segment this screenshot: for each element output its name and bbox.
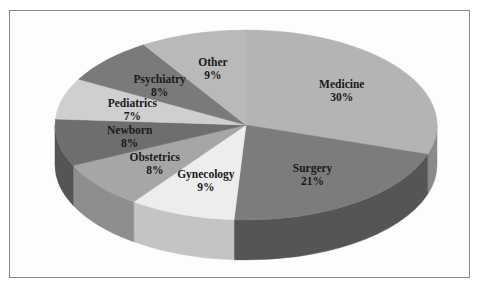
pie-label-value-psychiatry: 8% [151,86,168,98]
pie-label-name-surgery: Surgery [293,162,333,175]
pie-label-name-newborn: Newborn [107,124,153,136]
pie-label-name-other: Other [198,56,227,68]
pie-label-value-other: 9% [204,69,221,81]
pie-label-value-medicine: 30% [330,91,353,103]
pie-label-name-gynecology: Gynecology [177,168,235,181]
pie-label-value-obstetrics: 8% [146,164,163,176]
pie-label-name-psychiatry: Psychiatry [133,73,186,86]
pie-label-name-pediatrics: Pediatrics [108,97,158,109]
pie-label-name-obstetrics: Obstetrics [130,151,181,163]
pie-label-value-gynecology: 9% [197,181,214,193]
pie-label-value-surgery: 21% [301,175,324,187]
pie-label-value-newborn: 8% [121,137,138,149]
pie-chart: Medicine30%Surgery21%Gynecology9%Obstetr… [0,0,480,293]
pie-label-value-pediatrics: 7% [124,110,141,122]
pie-label-name-medicine: Medicine [319,78,364,90]
